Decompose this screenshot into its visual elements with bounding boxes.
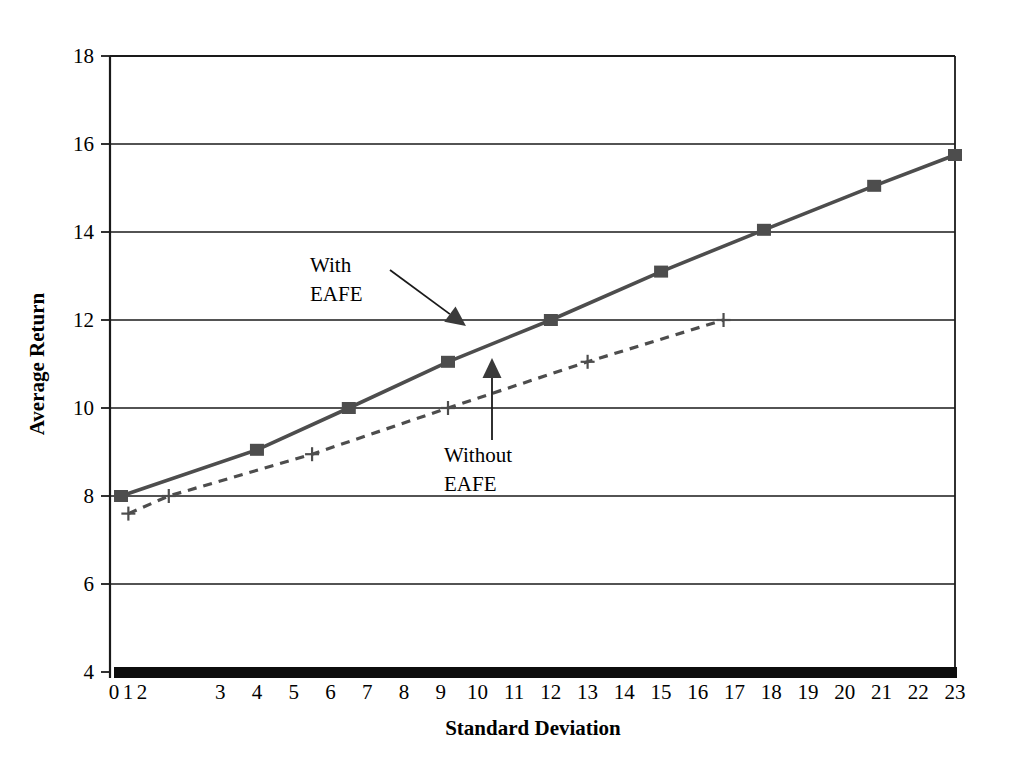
x-tick-label: 4 <box>252 680 263 704</box>
x-axis-title: Standard Deviation <box>445 716 621 740</box>
chart-figure: 4681012141618 01234567891011121314151617… <box>0 0 1010 772</box>
x-tick-label: 17 <box>724 680 745 704</box>
y-tick-label: 16 <box>73 132 94 156</box>
x-tick-label: 18 <box>761 680 782 704</box>
x-tick-label: 20 <box>834 680 855 704</box>
y-tick-label: 10 <box>73 396 94 420</box>
annotation-label: Without <box>444 443 512 467</box>
x-tick-label: 0 <box>109 680 120 704</box>
data-point-marker <box>654 266 668 278</box>
x-tick-label: 19 <box>798 680 819 704</box>
y-tick-label: 8 <box>84 484 95 508</box>
x-tick-label: 15 <box>651 680 672 704</box>
x-tick-label: 1 <box>123 680 134 704</box>
y-tick-label: 14 <box>73 220 95 244</box>
x-tick-label: 22 <box>908 680 929 704</box>
x-tick-label: 5 <box>288 680 299 704</box>
x-tick-label: 3 <box>215 680 226 704</box>
x-tick-label: 11 <box>504 680 524 704</box>
x-tick-label: 13 <box>577 680 598 704</box>
data-point-marker <box>250 444 264 456</box>
x-tick-label: 10 <box>467 680 488 704</box>
x-tick-label: 2 <box>137 680 148 704</box>
y-tick-label: 12 <box>73 308 94 332</box>
data-point-marker <box>441 356 455 368</box>
data-point-marker <box>948 149 962 161</box>
x-tick-label: 16 <box>687 680 708 704</box>
data-point-marker <box>544 314 558 326</box>
chart-canvas: 4681012141618 01234567891011121314151617… <box>0 0 1010 772</box>
x-tick-label: 14 <box>614 680 636 704</box>
data-point-marker <box>867 180 881 192</box>
y-tick-label: 18 <box>73 44 94 68</box>
x-tick-label: 21 <box>871 680 892 704</box>
data-point-marker <box>114 490 128 502</box>
y-tick-label: 4 <box>84 660 95 684</box>
x-tick-label: 7 <box>362 680 373 704</box>
x-tick-label: 6 <box>325 680 336 704</box>
annotation-label: EAFE <box>310 282 363 306</box>
y-axis-title: Average Return <box>25 292 49 435</box>
data-point-marker <box>757 224 771 236</box>
figure-background <box>0 0 1010 772</box>
x-tick-label: 9 <box>435 680 446 704</box>
x-tick-label: 23 <box>945 680 966 704</box>
data-point-marker <box>342 402 356 414</box>
x-axis-spine <box>114 667 957 678</box>
annotation-label: EAFE <box>444 472 497 496</box>
x-tick-label: 12 <box>540 680 561 704</box>
x-tick-label: 8 <box>399 680 410 704</box>
annotation-label: With <box>310 253 352 277</box>
y-tick-label: 6 <box>84 572 95 596</box>
